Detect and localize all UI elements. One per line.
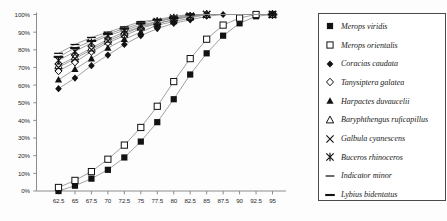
y-tick-label: 0%: [4, 187, 30, 194]
legend-marker-icon: [319, 167, 341, 185]
series-9: [54, 15, 277, 54]
chart-figure: 0%10%20%30%40%50%60%70%80%90%100% 62.565…: [0, 0, 447, 221]
legend-marker-icon: [319, 73, 341, 91]
y-tick-label: 30%: [4, 134, 30, 141]
legend-marker-icon: [319, 186, 341, 204]
y-tick-label: 60%: [4, 82, 30, 89]
legend-label: Merops orientalis: [341, 41, 398, 50]
legend-label: Harpactes duvaucelii: [341, 97, 409, 106]
y-tick-label: 50%: [4, 99, 30, 106]
legend-label: Coracias caudata: [341, 59, 398, 68]
y-tick-label: 80%: [4, 46, 30, 53]
legend-label: Lybius bidentatus: [341, 190, 397, 199]
legend-item[interactable]: Merops orientalis: [319, 36, 447, 55]
legend-item[interactable]: Harpactes duvaucelii: [319, 92, 447, 111]
legend-label: Tanysiptera galatea: [341, 78, 404, 87]
legend-item[interactable]: Tanysiptera galatea: [319, 73, 447, 92]
chart-canvas: [0, 0, 300, 221]
y-tick-label: 40%: [4, 117, 30, 124]
legend-marker-icon: [319, 17, 341, 35]
legend-label: Galbula cyanescens: [341, 134, 405, 143]
legend-item[interactable]: Lybius bidentatus: [319, 185, 447, 204]
legend-marker-icon: [319, 148, 341, 166]
legend-marker-icon: [319, 130, 341, 148]
y-tick-label: 20%: [4, 152, 30, 159]
legend-label: Merops viridis: [341, 22, 387, 31]
legend-item[interactable]: Merops viridis: [319, 17, 447, 36]
legend-label: Buceros rhinoceros: [341, 153, 403, 162]
y-tick-label: 10%: [4, 170, 30, 177]
y-tick-label: 70%: [4, 64, 30, 71]
plot-area: 0%10%20%30%40%50%60%70%80%90%100% 62.565…: [0, 0, 300, 221]
legend-item[interactable]: Coracias caudata: [319, 54, 447, 73]
legend-marker-icon: [319, 36, 341, 54]
legend-item[interactable]: Indicator minor: [319, 167, 447, 186]
y-tick-label: 90%: [4, 29, 30, 36]
legend-item[interactable]: Buceros rhinoceros: [319, 148, 447, 167]
legend-marker-icon: [319, 92, 341, 110]
chart-legend: Merops viridisMerops orientalisCoracias …: [318, 13, 446, 201]
y-tick-label: 100%: [4, 11, 30, 18]
legend-marker-icon: [319, 111, 341, 129]
legend-label: Baryphthengus ruficapillus: [341, 115, 428, 124]
legend-label: Indicator minor: [341, 171, 392, 180]
legend-marker-icon: [319, 55, 341, 73]
legend-item[interactable]: Galbula cyanescens: [319, 129, 447, 148]
x-tick-label: 95: [262, 197, 284, 204]
legend-item[interactable]: Baryphthengus ruficapillus: [319, 111, 447, 130]
